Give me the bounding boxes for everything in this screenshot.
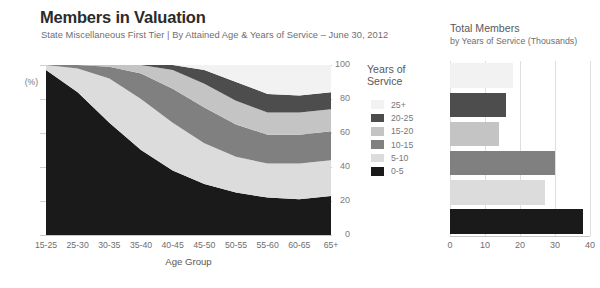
legend-item[interactable]: 5-10 [367, 151, 447, 164]
area-series-group [46, 65, 331, 235]
bar-5-10 [450, 180, 545, 205]
area-x-axis-line [40, 235, 332, 236]
area-x-tick-label: 60-65 [281, 240, 317, 250]
legend-item[interactable]: 10-15 [367, 138, 447, 151]
area-x-tick-label: 65+ [313, 240, 349, 250]
legend-item[interactable]: 25+ [367, 98, 447, 111]
legend-swatch-icon [371, 100, 384, 109]
bar-plot [450, 61, 593, 236]
area-x-tick-label: 25-30 [60, 240, 96, 250]
area-chart-panel: 100806040200 (%) 15-2525-3030-3535-4040-… [0, 55, 350, 288]
area-x-axis-title: Age Group [46, 256, 331, 267]
legend-item[interactable]: 15-20 [367, 125, 447, 138]
area-x-tick-label: 30-35 [91, 240, 127, 250]
legend-swatch-icon [371, 114, 384, 123]
legend-swatch-icon [371, 154, 384, 163]
bar-10-15 [450, 151, 555, 176]
legend-item-label: 5-10 [391, 153, 408, 163]
bar-chart-panel: Total Members by Years of Service (Thous… [448, 22, 595, 288]
legend-item-label: 15-20 [391, 126, 413, 136]
bar-x-tick-label: 0 [440, 240, 460, 250]
area-x-tick-label: 45-50 [186, 240, 222, 250]
bar-x-tick-label: 10 [475, 240, 495, 250]
legend-item-label: 25+ [391, 100, 406, 110]
legend-item[interactable]: 0-5 [367, 165, 447, 178]
bar-chart-title: Total Members [450, 22, 519, 34]
bar-x-tick-label: 30 [545, 240, 565, 250]
legend-items: 25+20-2515-2010-155-100-5 [367, 98, 447, 178]
legend-title-line1: Years of [367, 63, 429, 75]
bar-0-5 [450, 209, 583, 234]
legend-item-label: 20-25 [391, 113, 413, 123]
area-x-tick-label: 50-55 [218, 240, 254, 250]
bar-gridline [590, 61, 591, 236]
bar-20-25 [450, 93, 506, 118]
legend-item[interactable]: 20-25 [367, 111, 447, 124]
area-x-tick-label: 55-60 [250, 240, 286, 250]
area-x-tick-label: 15-25 [28, 240, 64, 250]
legend-item-label: 10-15 [391, 140, 413, 150]
legend: Years of Service 25+20-2515-2010-155-100… [367, 63, 447, 178]
area-x-tick-label: 40-45 [155, 240, 191, 250]
legend-title: Years of Service [367, 63, 429, 88]
area-x-tick-label: 35-40 [123, 240, 159, 250]
legend-item-label: 0-5 [391, 166, 404, 176]
legend-title-line2: Service [367, 75, 429, 87]
bar-x-tick-label: 20 [510, 240, 530, 250]
legend-swatch-icon [371, 127, 384, 136]
bar-x-axis-line [450, 236, 590, 237]
area-y-axis-unit: (%) [8, 77, 38, 87]
legend-swatch-icon [371, 140, 384, 149]
bar-chart-subtitle: by Years of Service (Thousands) [450, 36, 577, 46]
legend-swatch-icon [371, 167, 384, 176]
area-plot [46, 65, 331, 235]
page-title: Members in Valuation [40, 8, 206, 27]
page-subtitle: State Miscellaneous First Tier | By Atta… [41, 30, 388, 40]
bar-15-20 [450, 122, 499, 147]
bar-x-tick-label: 40 [580, 240, 600, 250]
bar-25+ [450, 63, 513, 88]
